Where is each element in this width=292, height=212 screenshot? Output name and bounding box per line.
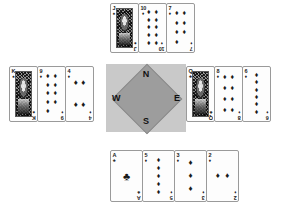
card-pip-diamond: ♦ [230,74,234,81]
card-corner-br: 4♦ [89,109,92,120]
compass-label-south: S [143,117,149,126]
card-pip-field: ♦♦♦ [181,156,200,196]
card-pip-field: ♦♦♦♦♦♦♦ [173,9,188,47]
card-pip-field: ♦♦♦♦ [72,72,87,116]
card-suit-diamond-icon: ♦ [234,189,236,194]
card-east-0[interactable]: Q♣Q♣ [186,66,215,122]
card-pip-field: ♦♦ [213,156,232,196]
card-suit-diamond-icon: ♦ [202,189,204,194]
card-pip-diamond: ♦ [53,82,57,89]
card-corner-tl: 8♦ [217,69,220,80]
card-west-0[interactable]: K♠K♠ [9,66,38,122]
card-corner-tl: 5♦ [145,153,148,164]
card-face-artwork [15,71,32,117]
card-suit-club-icon: ♣ [137,189,140,194]
card-pip-field: ♦♦♦♦♦♦ [249,72,264,116]
card-rank: A [137,194,141,200]
card-pip-diamond: ♦ [175,29,179,36]
card-corner-br: A♣ [137,189,141,200]
card-north-2[interactable]: 7♦7♦♦♦♦♦♦♦♦ [166,3,195,53]
card-corner-br: 5♦ [170,189,173,200]
card-suit-diamond-icon: ♦ [169,12,171,17]
card-suit-diamond-icon: ♦ [89,109,91,114]
card-suit-spade-icon: ♠ [134,40,136,45]
card-pip-diamond: ♦ [46,99,50,106]
card-corner-br: 8♦ [238,109,241,120]
card-corner-br: 9♦ [61,109,64,120]
card-pip-diamond: ♦ [230,107,234,114]
card-pip-diamond: ♦ [154,40,158,47]
card-pip-diamond: ♦ [225,172,229,180]
card-corner-br: Q♣ [209,109,213,120]
hand-west: K♠K♠9♦9♦♦♦♦♦♦♦♦♦♦4♦4♦♦♦♦♦ [9,66,93,122]
card-east-1[interactable]: 8♦8♦♦♦♦♦♦♦♦♦ [214,66,243,122]
card-pip-diamond: ♦ [182,10,186,17]
card-corner-br: 2♦ [234,189,237,200]
hand-south: A♣A♣♣5♦5♦♦♦♦♦♦3♦3♦♦♦♦2♦2♦♦♦ [110,150,238,202]
card-pip-diamond: ♦ [46,73,50,80]
card-rank: J [134,45,137,51]
card-pip-diamond: ♦ [216,172,220,180]
card-pip-diamond: ♦ [188,172,192,180]
card-pip-diamond: ♦ [175,39,179,46]
card-corner-br: 6♦ [266,109,269,120]
card-suit-club-icon: ♣ [113,159,116,164]
card-south-3[interactable]: 2♦2♦♦♦ [206,150,239,202]
card-pip-field: ♣ [117,156,136,196]
card-south-0[interactable]: A♣A♣♣ [110,150,143,202]
card-suit-diamond-icon: ♦ [209,159,211,164]
card-face-artwork [116,8,133,48]
card-north-0[interactable]: J♠J♠ [110,3,139,53]
card-rank: 3 [202,194,205,200]
card-north-1[interactable]: 10♦10♦♦♦♦♦♦♦♦♦♦♦ [138,3,167,53]
card-pip-diamond: ♦ [223,96,227,103]
hand-north: J♠J♠10♦10♦♦♦♦♦♦♦♦♦♦♦7♦7♦♦♦♦♦♦♦♦ [110,3,194,53]
card-suit-club-icon: ♣ [209,109,212,114]
compass-label-north: N [143,70,150,79]
compass-rose: N W E S [106,64,186,132]
card-west-2[interactable]: 4♦4♦♦♦♦♦ [65,66,94,122]
card-pip-diamond: ♦ [230,85,234,92]
card-pip-diamond: ♦ [230,96,234,103]
card-pip-diamond: ♦ [81,79,85,87]
card-corner-tl: 7♦ [169,6,172,17]
card-rank: 2 [234,194,237,200]
card-face-artwork [192,71,209,117]
card-pip-diamond: ♦ [157,181,161,188]
bridge-board: J♠J♠10♦10♦♦♦♦♦♦♦♦♦♦♦7♦7♦♦♦♦♦♦♦♦ K♠K♠9♦9♦… [0,0,292,212]
card-pip-diamond: ♦ [255,109,259,116]
card-corner-tl: 6♦ [245,69,248,80]
card-corner-tl: 9♦ [40,69,43,80]
card-pip-diamond: ♦ [157,157,161,164]
card-pip-diamond: ♦ [157,173,161,180]
card-west-1[interactable]: 9♦9♦♦♦♦♦♦♦♦♦♦ [37,66,66,122]
card-rank: 7 [190,45,193,51]
card-rank: Q [209,114,213,120]
card-suit-diamond-icon: ♦ [40,75,42,80]
card-pip-diamond: ♦ [157,189,161,196]
card-east-2[interactable]: 6♦6♦♦♦♦♦♦♦ [242,66,271,122]
card-pip-diamond: ♦ [46,82,50,89]
card-suit-diamond-icon: ♦ [61,109,63,114]
card-suit-diamond-icon: ♦ [170,189,172,194]
card-south-2[interactable]: 3♦3♦♦♦♦ [174,150,207,202]
card-pip-field: ♦♦♦♦♦♦♦♦♦ [44,72,59,116]
card-pip-club: ♣ [123,171,130,182]
card-corner-tl: A♣ [113,153,117,164]
card-suit-diamond-icon: ♦ [190,40,192,45]
card-corner-tl: J♠ [113,6,116,17]
card-pip-diamond: ♦ [175,10,179,17]
card-suit-spade-icon: ♠ [32,109,34,114]
card-corner-tl: 3♦ [177,153,180,164]
card-south-1[interactable]: 5♦5♦♦♦♦♦♦ [142,150,175,202]
card-pip-diamond: ♦ [182,20,186,27]
card-suit-diamond-icon: ♦ [177,159,179,164]
card-suit-diamond-icon: ♦ [145,159,147,164]
card-pip-diamond: ♦ [53,99,57,106]
card-pip-diamond: ♦ [182,29,186,36]
card-pip-diamond: ♦ [223,107,227,114]
card-pip-diamond: ♦ [175,20,179,27]
card-suit-diamond-icon: ♦ [217,75,219,80]
card-pip-diamond: ♦ [223,74,227,81]
card-pip-field: ♦♦♦♦♦ [149,156,168,196]
